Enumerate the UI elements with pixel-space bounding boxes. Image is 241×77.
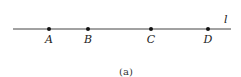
point-d-label: D xyxy=(203,33,213,46)
line-diagram: l A B C D (a) xyxy=(0,0,241,77)
point-b-label: B xyxy=(83,33,92,46)
point-a xyxy=(47,27,51,31)
point-c-label: C xyxy=(147,33,156,46)
line-label: l xyxy=(224,13,228,26)
point-d xyxy=(206,27,210,31)
caption: (a) xyxy=(119,66,133,77)
point-a-label: A xyxy=(44,33,53,46)
point-b xyxy=(86,27,90,31)
point-c xyxy=(149,27,153,31)
